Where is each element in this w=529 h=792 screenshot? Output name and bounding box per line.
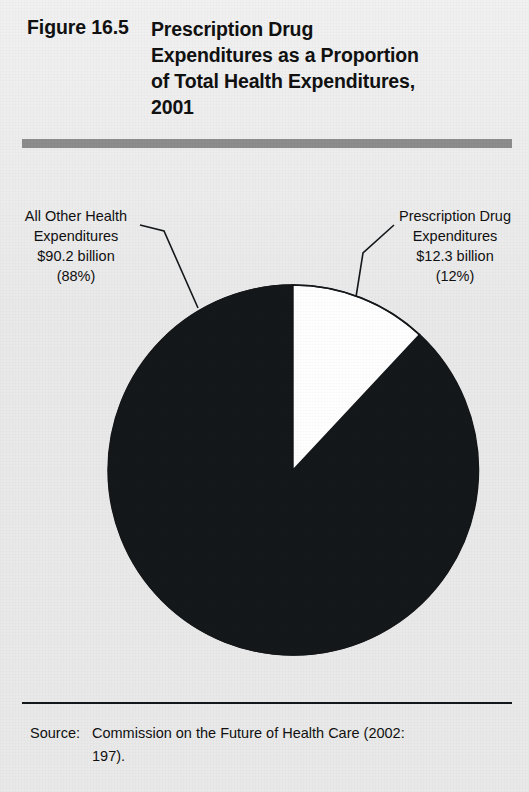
callout-left-value: $90.2 billion	[10, 246, 142, 266]
source-note-continuation: 197).	[92, 745, 500, 768]
callout-left-percent: (88%)	[10, 266, 142, 286]
callout-label-prescription-drug: Prescription Drug Expenditures $12.3 bil…	[388, 206, 522, 286]
callout-label-all-other: All Other Health Expenditures $90.2 bill…	[10, 206, 142, 286]
callout-right-percent: (12%)	[388, 266, 522, 286]
source-note-row: Source: Commission on the Future of Heal…	[30, 722, 500, 745]
header-rule	[22, 139, 512, 148]
footer-rule	[22, 702, 512, 704]
figure-number: Figure 16.5	[27, 16, 129, 39]
figure-title-line-1: Prescription Drug	[151, 16, 491, 42]
source-note: Source: Commission on the Future of Heal…	[30, 722, 500, 768]
figure-title-line-3: of Total Health Expenditures,	[151, 68, 491, 94]
source-note-text: Commission on the Future of Health Care …	[92, 722, 500, 745]
figure-title: Prescription Drug Expenditures as a Prop…	[151, 16, 491, 120]
callout-right-line-1: Prescription Drug	[388, 206, 522, 226]
callout-right-line-2: Expenditures	[388, 226, 522, 246]
pie-chart: All Other Health Expenditures $90.2 bill…	[0, 160, 529, 700]
source-note-label: Source:	[30, 722, 92, 745]
figure-title-line-2: Expenditures as a Proportion	[151, 42, 491, 68]
leader-line-all-other	[140, 225, 198, 308]
callout-left-line-2: Expenditures	[10, 226, 142, 246]
callout-right-value: $12.3 billion	[388, 246, 522, 266]
figure-title-line-4: 2001	[151, 94, 491, 120]
figure-page: Figure 16.5 Prescription Drug Expenditur…	[0, 0, 529, 792]
callout-left-line-1: All Other Health	[10, 206, 142, 226]
